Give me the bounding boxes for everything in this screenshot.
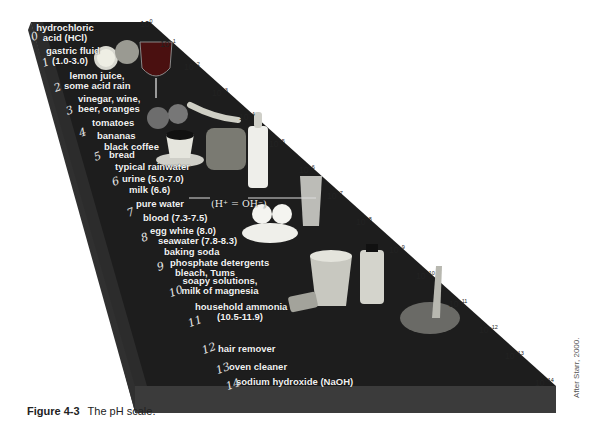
exponent-7: 10−7 — [327, 190, 343, 201]
bleach-bottle-icon — [360, 244, 384, 304]
label-line: (1.0-3.0) — [46, 56, 94, 66]
exponent-1: 10−1 — [160, 38, 176, 49]
exponent-14: 10−14 — [535, 377, 554, 388]
label-blood: blood (7.3-7.5) — [143, 213, 207, 223]
exp-power: −7 — [336, 190, 342, 196]
label-line: acid (HCl) — [36, 33, 94, 43]
label-sodium-hydroxide: sodium hydroxide (NaOH) — [236, 377, 353, 387]
exponent-11: 10−11 — [449, 298, 467, 309]
exp-power: −12 — [488, 324, 497, 330]
exp-power: −1 — [169, 38, 175, 44]
exponent-0: 100 — [140, 18, 153, 29]
exponent-3: 10−3 — [212, 87, 228, 98]
label-gastric-fluid: gastric fluid (1.0-3.0) — [46, 46, 94, 66]
exp-power: −4 — [248, 111, 254, 117]
label-bananas: bananas — [97, 131, 136, 141]
label-pure-water: pure water — [136, 199, 184, 209]
figure-caption: Figure 4-3The pH scale. — [27, 405, 155, 417]
exponent-6: 10−6 — [299, 164, 315, 175]
caption-label: Figure 4-3 — [27, 405, 80, 417]
exponent-12: 10−12 — [479, 324, 498, 335]
exp-power: −3 — [221, 87, 227, 93]
exp-power: −10 — [425, 270, 434, 276]
label-oven-cleaner: oven cleaner — [229, 362, 287, 372]
label-typical-rainwater: typical rainwater — [115, 162, 190, 172]
exponent-5: 10−5 — [269, 138, 285, 149]
exp-power: −8 — [365, 216, 371, 222]
label-soapy-solutions: soapy solutions, milk of magnesia — [180, 276, 260, 296]
label-line: some acid rain — [64, 81, 130, 91]
figure-credit: After Starr, 2000. — [572, 338, 581, 398]
label-line: (10.5-11.9) — [195, 312, 285, 322]
exp-power: 0 — [149, 18, 152, 24]
exp-power: −2 — [193, 61, 199, 67]
exponent-2: 10−2 — [184, 61, 200, 72]
ph-slab-graphic — [0, 0, 600, 440]
water-glass-icon — [300, 176, 322, 226]
label-lemon-juice: lemon juice, some acid rain — [64, 71, 130, 91]
label-milk: milk (6.6) — [129, 185, 170, 195]
ph-scale-figure: 0 1 2 3 4 5 6 7 8 9 10 11 12 13 14 hydro… — [0, 0, 600, 440]
caption-text: The pH scale. — [88, 405, 156, 417]
label-hair-remover: hair remover — [218, 344, 276, 354]
exp-power: −6 — [308, 164, 314, 170]
label-urine: urine (5.0-7.0) — [122, 174, 184, 184]
label-household-ammonia: household ammonia (10.5-11.9) — [195, 302, 285, 322]
label-neutral-annotation: (H⁺ = OH⁻) — [211, 199, 267, 209]
bread-icon — [206, 128, 246, 170]
label-baking-soda: baking soda — [164, 247, 219, 257]
exp-power: −11 — [458, 298, 467, 304]
exp-power: −14 — [544, 377, 553, 383]
label-line: milk of magnesia — [180, 286, 260, 296]
label-bread: bread — [109, 150, 135, 160]
label-tomatoes: tomatoes — [92, 118, 134, 128]
exp-power: −13 — [514, 350, 523, 356]
exponent-10: 10−10 — [416, 270, 435, 281]
exponent-4: 10−4 — [239, 111, 255, 122]
exponent-9: 10−9 — [389, 244, 405, 255]
label-hydrochloric-acid: hydrochloric acid (HCl) — [36, 23, 94, 43]
label-line: beer, oranges — [78, 104, 136, 114]
exp-power: −9 — [398, 244, 404, 250]
exponent-8: 10−8 — [356, 216, 372, 227]
exp-power: −5 — [278, 138, 284, 144]
exponent-13: 10−13 — [505, 350, 524, 361]
orange-icon — [115, 40, 139, 64]
slab-front-face — [135, 386, 556, 413]
label-vinegar-wine: vinegar, wine, beer, oranges — [78, 94, 136, 114]
label-seawater: seawater (7.8-8.3) — [158, 236, 237, 246]
